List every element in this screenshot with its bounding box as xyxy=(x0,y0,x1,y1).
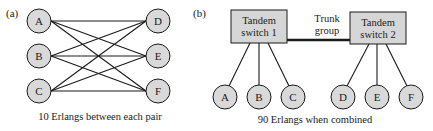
node-b-left: B xyxy=(27,44,51,68)
panel-b-caption: 90 Erlangs when combined xyxy=(258,114,373,125)
svg-text:C: C xyxy=(289,91,296,103)
node-d: D xyxy=(331,85,355,109)
svg-text:A: A xyxy=(221,91,229,103)
svg-text:A: A xyxy=(35,15,43,27)
trunk-label-line1: Trunk xyxy=(314,13,340,24)
node-b: B xyxy=(247,85,271,109)
svg-text:D: D xyxy=(339,91,347,103)
tandem-switch-2: Tandem switch 2 xyxy=(350,12,406,44)
node-a-left: A xyxy=(27,9,51,33)
svg-text:B: B xyxy=(255,91,262,103)
svg-text:Tandem: Tandem xyxy=(361,17,395,28)
svg-text:Tandem: Tandem xyxy=(242,15,276,26)
panel-a-label: (a) xyxy=(6,7,19,20)
node-e-right: E xyxy=(146,44,170,68)
trunk-label-line2: group xyxy=(315,25,340,36)
tandem-switch-1: Tandem switch 1 xyxy=(231,10,287,43)
node-c: C xyxy=(281,85,305,109)
svg-text:F: F xyxy=(155,85,161,97)
node-a: A xyxy=(213,85,237,109)
node-e: E xyxy=(365,85,389,109)
svg-text:C: C xyxy=(35,85,42,97)
node-f: F xyxy=(399,85,423,109)
node-c-left: C xyxy=(27,79,51,103)
svg-text:switch 1: switch 1 xyxy=(241,27,276,38)
full-mesh-links xyxy=(51,21,146,91)
switch-links xyxy=(229,43,407,86)
node-f-right: F xyxy=(146,79,170,103)
panel-b-label: (b) xyxy=(193,7,206,20)
svg-text:D: D xyxy=(154,15,162,27)
erlang-diagram: (a) A B C D E F 10 Erlangs between each … xyxy=(0,0,433,131)
node-d-right: D xyxy=(146,9,170,33)
svg-text:F: F xyxy=(408,91,414,103)
svg-text:E: E xyxy=(155,50,162,62)
svg-text:switch 2: switch 2 xyxy=(360,29,395,40)
svg-text:E: E xyxy=(374,91,381,103)
svg-text:B: B xyxy=(35,50,42,62)
panel-a-caption: 10 Erlangs between each pair xyxy=(38,111,162,122)
